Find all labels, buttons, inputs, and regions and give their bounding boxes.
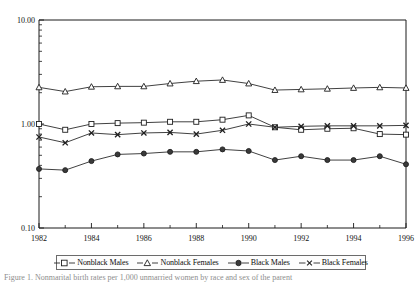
legend-entry-black-males: Black Males xyxy=(228,258,290,268)
cross-x-icon xyxy=(299,258,320,268)
svg-text:1990: 1990 xyxy=(241,234,257,243)
legend-entry-black-females: Black Females xyxy=(299,258,368,268)
figure-panel: 10.001.000.10198219841986198819901992199… xyxy=(0,0,419,283)
svg-text:1984: 1984 xyxy=(83,234,99,243)
svg-text:1988: 1988 xyxy=(188,234,204,243)
filled-circle-icon xyxy=(228,258,249,268)
legend-label: Black Females xyxy=(322,259,368,267)
legend-entry-nonblack-males: Nonblack Males xyxy=(54,258,128,268)
open-triangle-icon xyxy=(137,258,158,268)
legend-entry-nonblack-females: Nonblack Females xyxy=(137,258,218,268)
svg-text:1986: 1986 xyxy=(136,234,152,243)
svg-text:1982: 1982 xyxy=(31,234,47,243)
svg-text:10.00: 10.00 xyxy=(17,16,35,25)
svg-text:1992: 1992 xyxy=(293,234,309,243)
legend-label: Nonblack Females xyxy=(160,259,218,267)
series-nonblack-females xyxy=(36,77,409,94)
svg-text:1.00: 1.00 xyxy=(21,120,35,129)
caption-text: Figure 1. Nonmarital birth rates per 1,0… xyxy=(4,274,415,282)
open-square-icon xyxy=(54,258,75,268)
svg-text:0.10: 0.10 xyxy=(21,224,35,233)
series-black-males xyxy=(37,147,409,173)
chart-legend: Nonblack Males Nonblack Females Black Ma… xyxy=(56,255,366,270)
line-chart: 10.001.000.10198219841986198819901992199… xyxy=(0,0,419,283)
legend-label: Nonblack Males xyxy=(77,259,128,267)
svg-text:1994: 1994 xyxy=(346,234,362,243)
legend-label: Black Males xyxy=(251,259,290,267)
figure-caption: Figure 1. Nonmarital birth rates per 1,0… xyxy=(4,274,415,283)
svg-text:1996: 1996 xyxy=(398,234,414,243)
